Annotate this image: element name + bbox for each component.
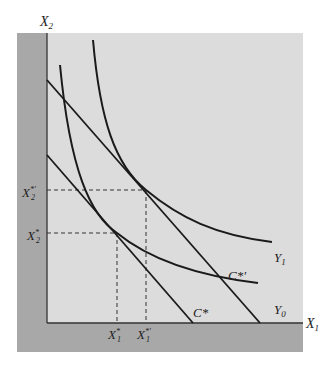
y-axis-label: X2	[39, 14, 54, 31]
c-star-prime-label: C*'	[228, 268, 246, 283]
x1-star-prime-sub: 1	[146, 335, 150, 344]
isoquant-diagram: X2 X1 Y1 Y0 C*' C* X*' 2 X* 2 X* 1 X*' 1	[0, 0, 333, 369]
bottom-strip	[17, 323, 303, 352]
x1-star-sub: 1	[117, 335, 121, 344]
x2-star-sub: 2	[36, 236, 40, 245]
x-axis-label: X1	[305, 316, 319, 333]
c-star-label: C*	[193, 305, 209, 320]
plot-panel	[17, 33, 303, 352]
x2-star-prime-sub: 2	[31, 193, 35, 202]
